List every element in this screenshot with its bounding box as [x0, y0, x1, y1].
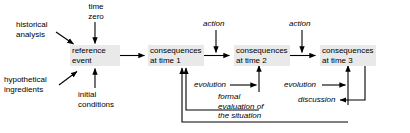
label-action-2: action	[289, 19, 310, 29]
edge-discussion	[340, 66, 365, 100]
label-hypothetical-ingredients: hypothetical ingredients	[4, 75, 47, 94]
label-time-zero: time zero	[82, 2, 110, 21]
edge-historical-analysis	[56, 32, 74, 44]
label-formal-evaluation: formal evaluation of the situation	[218, 92, 263, 121]
node-consequences-time-2[interactable]: consequences at time 2	[234, 45, 290, 66]
node-consequences-time-3[interactable]: consequences at time 3	[320, 45, 376, 66]
label-initial-conditions: initial conditions	[78, 90, 114, 109]
diagram-canvas: reference event consequences at time 1 c…	[0, 0, 410, 133]
node-consequences-time-1[interactable]: consequences at time 1	[148, 45, 204, 66]
node-reference-event[interactable]: reference event	[70, 45, 120, 66]
label-discussion: discussion	[298, 95, 335, 105]
edge-hypothetical-ingredients	[59, 72, 77, 86]
label-action-1: action	[203, 19, 224, 29]
label-evolution-2: evolution	[284, 80, 316, 90]
label-historical-analysis: historical analysis	[16, 20, 48, 39]
label-evolution-1: evolution	[194, 80, 226, 90]
